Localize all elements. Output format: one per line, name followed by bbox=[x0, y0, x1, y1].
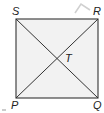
vertex-label-Q: Q bbox=[93, 99, 102, 111]
vertex-label-P: P bbox=[11, 99, 19, 111]
vertex-label-S: S bbox=[12, 5, 20, 17]
faint-artifact-mark bbox=[75, 4, 90, 13]
vertex-label-R: R bbox=[93, 5, 101, 17]
square-diagram: S R P Q T bbox=[0, 0, 104, 113]
